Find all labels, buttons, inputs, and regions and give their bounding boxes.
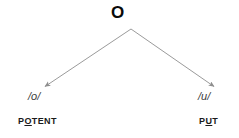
example-word-left: POTENT xyxy=(18,116,57,127)
phoneme-label-left: /o/ xyxy=(28,90,40,103)
diagram-canvas: O /o/ /u/ POTENT PUT xyxy=(0,0,239,138)
word-right-suffix: T xyxy=(212,116,218,126)
word-left-highlight: O xyxy=(24,116,31,126)
root-grapheme-label: O xyxy=(0,3,239,22)
branch-arrow-left xyxy=(45,29,131,87)
branch-arrow-right xyxy=(131,29,214,87)
example-word-right: PUT xyxy=(199,116,218,127)
phoneme-label-right: /u/ xyxy=(198,90,210,103)
word-left-suffix: TENT xyxy=(32,116,57,126)
